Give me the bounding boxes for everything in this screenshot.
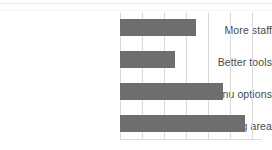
bar-row-healthier-menu-options bbox=[120, 76, 262, 108]
scan-artifact-line bbox=[0, 10, 272, 11]
bar-healthier-menu-options bbox=[120, 83, 223, 100]
bar-better-tools bbox=[120, 51, 175, 68]
bar-row-more-staff bbox=[120, 12, 262, 44]
scan-artifact-line bbox=[0, 3, 272, 4]
bar-chart-figure: More staff Better tools Healthier menu o… bbox=[0, 0, 272, 150]
plot-area bbox=[120, 12, 262, 140]
bar-more-staff bbox=[120, 19, 196, 36]
bar-larger-dining-area bbox=[120, 115, 245, 132]
bar-row-larger-dining-area bbox=[120, 108, 262, 140]
bar-row-better-tools bbox=[120, 44, 262, 76]
